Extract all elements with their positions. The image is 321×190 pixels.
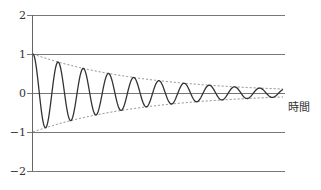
damped-wave-line (33, 54, 283, 128)
y-tick-label: 0 (19, 88, 26, 99)
damped-oscillation-chart (0, 0, 321, 190)
y-tick-label: −2 (10, 166, 26, 177)
x-axis-label: 時間 (288, 98, 310, 114)
y-tick-label: 1 (19, 49, 26, 60)
lower-envelope (33, 97, 283, 132)
upper-envelope (33, 54, 283, 89)
y-tick-label: 2 (19, 10, 26, 21)
y-tick-label: −1 (10, 127, 26, 138)
gridlines (27, 16, 285, 172)
